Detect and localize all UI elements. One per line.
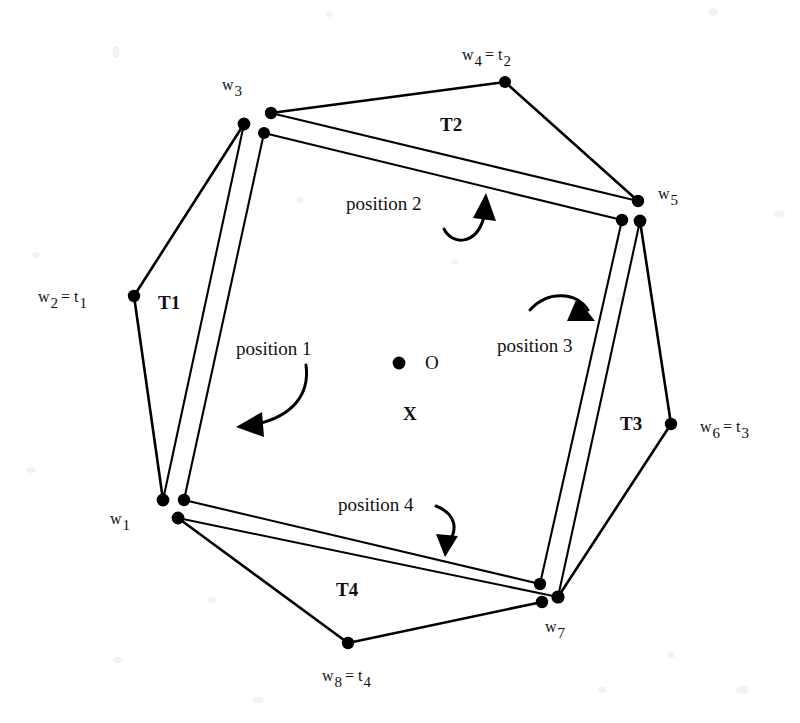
vertex-label-w5-base: w bbox=[658, 185, 670, 202]
vertex-dot-w7-c bbox=[536, 596, 548, 608]
vertex-label-w8-eqsub: 4 bbox=[363, 674, 374, 690]
vertex-label-w6: w6= t3 bbox=[700, 416, 751, 435]
triangle-label-t2: T2 bbox=[440, 115, 462, 134]
vertex-label-w1-base: w bbox=[110, 510, 122, 527]
vertex-label-w8-eq: = t bbox=[344, 667, 362, 684]
vertex-label-w3: w3 bbox=[222, 74, 244, 93]
vertex-label-w2-eq: = t bbox=[60, 288, 78, 305]
vertex-label-w1: w1 bbox=[110, 508, 132, 527]
triangle-label-t1: T1 bbox=[158, 293, 180, 312]
vertex-label-w2-base: w bbox=[38, 288, 50, 305]
vertex-dot-w7-b bbox=[551, 590, 564, 603]
vertex-dot-w1-a bbox=[157, 494, 170, 507]
vertex-label-w3-sub: 3 bbox=[234, 83, 245, 99]
vertex-label-w5-sub: 5 bbox=[670, 192, 681, 208]
vertex-dot-w5-a bbox=[616, 214, 628, 226]
vertex-dot-w5-outer bbox=[632, 195, 644, 207]
vertex-dot-w2 bbox=[128, 290, 140, 302]
position-2-arrow bbox=[444, 193, 496, 240]
vertex-label-w7: w7 bbox=[545, 616, 567, 635]
vertex-label-w8-base: w bbox=[322, 667, 334, 684]
vertex-label-w1-sub: 1 bbox=[122, 517, 133, 533]
vertex-dot-w5-b bbox=[634, 215, 647, 228]
vertex-label-w6-eqsub: 3 bbox=[741, 425, 752, 441]
vertex-label-w3-base: w bbox=[222, 76, 234, 93]
center-label-x: X bbox=[403, 404, 417, 423]
position-label-1: position 1 bbox=[236, 339, 311, 358]
position-label-4: position 4 bbox=[338, 495, 413, 514]
vertex-dot-w3-outer bbox=[265, 107, 277, 119]
vertex-label-w2-sub: 2 bbox=[50, 295, 61, 311]
position-1-arrow bbox=[236, 365, 307, 437]
vertex-dot-w3-a bbox=[238, 118, 251, 131]
vertex-dot-w7-a bbox=[534, 578, 546, 590]
vertex-label-w8-sub: 8 bbox=[334, 674, 345, 690]
center-dot-o bbox=[393, 357, 406, 370]
vertex-label-w6-sub: 6 bbox=[712, 425, 723, 441]
triangle-label-t4: T4 bbox=[336, 580, 358, 599]
vertex-label-w6-eq: = t bbox=[722, 418, 740, 435]
vertex-label-w4-base: w bbox=[462, 46, 474, 63]
position-4-arrow bbox=[436, 506, 458, 557]
position-3-arrow bbox=[530, 296, 595, 321]
vertex-dot-w4 bbox=[499, 76, 511, 88]
vertex-label-w6-base: w bbox=[700, 418, 712, 435]
position-label-2: position 2 bbox=[346, 194, 421, 213]
vertex-label-w5: w5 bbox=[658, 183, 680, 202]
vertex-label-w4: w4= t2 bbox=[462, 44, 513, 63]
vertex-dot-w8 bbox=[342, 637, 354, 649]
vertex-label-w2-eqsub: 1 bbox=[79, 295, 90, 311]
vertex-dot-w1-c bbox=[172, 512, 185, 525]
vertex-label-w7-base: w bbox=[545, 618, 557, 635]
position-label-3: position 3 bbox=[497, 336, 572, 355]
vertex-label-w8: w8= t4 bbox=[322, 665, 373, 684]
paper-noise bbox=[26, 8, 785, 703]
figure-canvas: w3 w4= t2 w5 w6= t3 w7 w8= t4 w1 w2= t1 … bbox=[0, 0, 800, 723]
vertex-label-w4-eqsub: 2 bbox=[503, 53, 514, 69]
vertex-label-w4-eq: = t bbox=[484, 46, 502, 63]
vertex-dot-w3-b bbox=[258, 127, 270, 139]
vertex-dot-w6 bbox=[665, 418, 677, 430]
vertex-label-w7-sub: 7 bbox=[557, 625, 568, 641]
vertex-dot-w1-b bbox=[178, 494, 190, 506]
octagon-diagram-svg bbox=[0, 0, 800, 723]
center-label-o: O bbox=[425, 353, 439, 372]
vertex-label-w2: w2= t1 bbox=[38, 286, 89, 305]
vertex-label-w4-sub: 4 bbox=[474, 53, 485, 69]
triangle-label-t3: T3 bbox=[620, 414, 642, 433]
